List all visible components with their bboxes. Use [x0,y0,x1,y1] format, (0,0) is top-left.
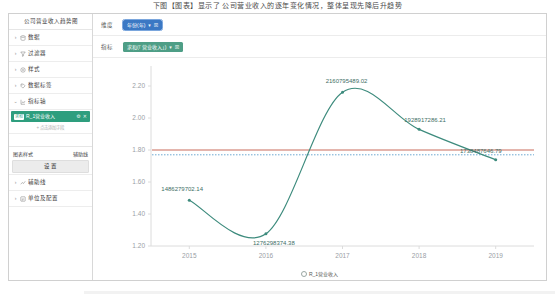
metric-aggregate-badge: 求和 [14,114,24,120]
config-icon [20,196,26,202]
line-icon [20,180,26,186]
chevron-down-icon[interactable]: ▾ [169,42,172,52]
svg-text:2.20: 2.20 [132,82,145,89]
svg-text:2015: 2015 [182,252,197,259]
sidebar-item-style[interactable]: › 样式 [9,62,92,78]
sidebar-item-data[interactable]: › 数据 [9,30,92,46]
palette-icon [20,67,26,73]
section-right-label: 辅助线 [73,150,88,157]
page-title: 公司营业收入趋势图 [9,14,92,30]
section-left-label: 图表样式 [13,150,33,157]
metric-label: R_1营业收入 [26,111,55,122]
svg-text:2160795489.02: 2160795489.02 [326,78,368,84]
svg-text:1738487646.79: 1738487646.79 [460,148,502,154]
svg-text:2019: 2019 [488,252,503,259]
legend-marker-icon [301,271,307,277]
sidebar-item-label: 过滤器 [28,46,46,61]
app-window: 公司营业收入趋势图 › 数据 › 过滤器 › 样式 › [8,13,547,281]
measure-tag-text: 求和(「营业收入」) [127,42,166,52]
svg-text:2018: 2018 [412,252,427,259]
axis-icon [20,99,26,105]
sidebar-item-label: 数据 [28,30,40,45]
close-icon[interactable]: ✕ [83,111,87,122]
measure-label: 指标 [101,43,117,51]
line-chart[interactable]: 2.202.001.801.601.401.202015201620172018… [93,58,546,280]
svg-text:1.40: 1.40 [132,210,145,217]
dimension-label: 维度 [101,21,117,29]
chevron-right-icon: › [13,62,18,77]
database-icon [20,35,26,41]
sidebar-item-reference-line[interactable]: › 辅助线 [9,174,92,191]
svg-text:2016: 2016 [259,252,274,259]
sidebar-item-axis[interactable]: ⌄ 指标轴 [9,94,92,110]
sidebar: 公司营业收入趋势图 › 数据 › 过滤器 › 样式 › [9,14,93,280]
gear-icon[interactable]: ⚙ [76,111,80,122]
chevron-down-icon: ⌄ [13,94,18,109]
close-icon[interactable]: ☒ [175,42,179,52]
page-caption: 下图【图表】显示了 公司营业收入的逐年变化情况，整体呈现先降后升趋势 [0,0,555,12]
svg-text:1276298374.38: 1276298374.38 [253,240,295,246]
svg-text:1.60: 1.60 [132,178,145,185]
sidebar-item-label: 数据标签 [28,78,52,93]
sidebar-item-label: 单位及配置 [28,191,58,206]
svg-text:1486279702.14: 1486279702.14 [161,186,203,192]
sidebar-section-header: 图表样式 辅助线 [9,147,92,159]
sidebar-item-label: 样式 [28,62,40,77]
dimension-tag-text: 年份(年) [127,20,145,30]
chart-legend[interactable]: R_1营业收入 [93,270,546,277]
funnel-icon [20,51,26,57]
svg-text:1928917286.21: 1928917286.21 [404,117,446,123]
svg-text:2017: 2017 [335,252,350,259]
sidebar-item-filter[interactable]: › 过滤器 [9,46,92,62]
chevron-right-icon: › [13,78,18,93]
chevron-down-icon[interactable]: ▾ [148,20,151,30]
sidebar-item-data-label[interactable]: › 数据标签 [9,78,92,94]
chevron-right-icon: › [13,191,18,206]
selected-metric-chip[interactable]: 求和 R_1营业收入 ⚙ ✕ [11,111,90,122]
chart-area[interactable]: 2.202.001.801.601.401.202015201620172018… [93,58,546,280]
chevron-right-icon: › [13,175,18,190]
measure-filter-row: 指标 求和(「营业收入」) ▾ ☒ [93,36,546,58]
svg-text:1.80: 1.80 [132,146,145,153]
add-field-placeholder[interactable]: + 点击添加字段 [9,123,92,134]
sidebar-divider [9,134,92,147]
close-icon[interactable]: ☒ [154,20,158,30]
legend-label: R_1营业收入 [309,271,338,277]
measure-tag[interactable]: 求和(「营业收入」) ▾ ☒ [123,42,183,52]
settings-button[interactable]: 设 置 [12,160,89,173]
dimension-tag[interactable]: 年份(年) ▾ ☒ [123,20,162,30]
sidebar-item-unit-config[interactable]: › 单位及配置 [9,191,92,207]
sidebar-item-label: 指标轴 [28,94,46,109]
svg-text:1.20: 1.20 [132,242,145,249]
dimension-filter-row: 维度 年份(年) ▾ ☒ [93,14,546,36]
chevron-right-icon: › [13,46,18,61]
svg-text:2.00: 2.00 [132,114,145,121]
sidebar-item-label: 辅助线 [28,175,46,190]
tag-icon [20,83,26,89]
main-panel: 维度 年份(年) ▾ ☒ 指标 求和(「营业收入」) ▾ ☒ 2.202.001… [93,14,546,280]
chevron-right-icon: › [13,30,18,45]
